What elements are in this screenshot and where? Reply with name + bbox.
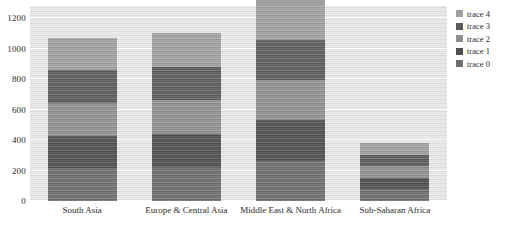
bar-segment[interactable] [48, 136, 117, 169]
x-axis-tick-label: South Asia [62, 205, 101, 215]
bar-segment[interactable] [360, 143, 429, 155]
legend-item-label: trace 4 [467, 9, 490, 19]
bar-segment[interactable] [256, 120, 325, 160]
bar-stack[interactable] [152, 33, 221, 201]
legend-swatch-icon [456, 48, 463, 55]
x-axis-tick-label: Sub-Saharan Africa [360, 205, 431, 215]
y-axis-tick-label: 600 [12, 105, 26, 115]
gridline [30, 17, 447, 18]
bar-segment[interactable] [256, 0, 325, 40]
y-axis-tick-label: 400 [12, 135, 26, 145]
bar-segment[interactable] [48, 168, 117, 201]
bar-segment[interactable] [256, 161, 325, 201]
bar-segment[interactable] [256, 80, 325, 120]
legend-swatch-icon [456, 23, 463, 30]
y-axis-tick-label: 800 [12, 74, 26, 84]
bar-segment[interactable] [48, 70, 117, 103]
bar-segment[interactable] [360, 178, 429, 190]
y-axis-tick-label: 0 [21, 196, 26, 206]
bar-segment[interactable] [152, 100, 221, 134]
legend-item-label: trace 1 [467, 46, 490, 56]
plot-area [30, 6, 447, 201]
legend-item[interactable]: trace 1 [456, 46, 509, 57]
y-axis-tick-label: 200 [12, 166, 26, 176]
y-axis-tick-label: 1000 [7, 44, 26, 54]
bar-segment[interactable] [48, 38, 117, 71]
chart-container: 020040060080010001200 South AsiaEurope &… [0, 0, 509, 230]
legend-swatch-icon [456, 35, 463, 42]
legend-item[interactable]: trace 2 [456, 33, 509, 44]
x-axis: South AsiaEurope & Central AsiaMiddle Ea… [30, 201, 447, 221]
bar-segment[interactable] [360, 166, 429, 178]
bar-segment[interactable] [152, 33, 221, 67]
legend-item[interactable]: trace 3 [456, 21, 509, 32]
bar-segment[interactable] [152, 134, 221, 168]
bar-stack[interactable] [256, 0, 325, 201]
legend-item[interactable]: trace 4 [456, 8, 509, 19]
bar-segment[interactable] [152, 167, 221, 201]
legend-swatch-icon [456, 10, 463, 17]
bar-stack[interactable] [48, 38, 117, 201]
legend-item[interactable]: trace 0 [456, 58, 509, 69]
legend-item-label: trace 2 [467, 34, 490, 44]
bar-stack[interactable] [360, 143, 429, 201]
x-axis-tick-label: Middle East & North Africa [240, 205, 341, 215]
x-axis-tick-label: Europe & Central Asia [145, 205, 227, 215]
bar-segment[interactable] [152, 67, 221, 101]
bar-segment[interactable] [360, 155, 429, 167]
y-axis: 020040060080010001200 [0, 0, 30, 230]
y-axis-tick-label: 1200 [7, 13, 26, 23]
legend-item-label: trace 3 [467, 21, 490, 31]
bar-segment[interactable] [48, 103, 117, 136]
chart-legend: trace 4trace 3trace 2trace 1trace 0 [456, 8, 509, 71]
bar-segment[interactable] [360, 189, 429, 201]
legend-item-label: trace 0 [467, 59, 490, 69]
bar-segment[interactable] [256, 40, 325, 80]
legend-swatch-icon [456, 60, 463, 67]
